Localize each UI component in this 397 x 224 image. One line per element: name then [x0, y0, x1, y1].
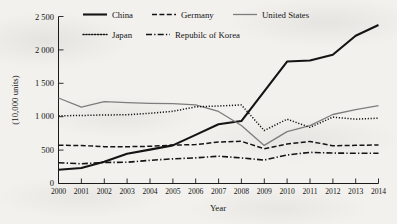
legend-item-united-states: United States	[233, 10, 310, 20]
legend-label: Germany	[181, 10, 214, 20]
series-line-united-states	[59, 98, 379, 145]
x-tick-label: 2000	[51, 187, 66, 196]
series-line-germany	[59, 141, 379, 148]
y-tick-label: 1 500	[35, 78, 54, 88]
x-tick-label: 2008	[234, 187, 249, 196]
chart-legend: China Germany United States Japan Repubi…	[83, 10, 310, 40]
line-chart-figure: (10,000 units) 2 500 2 000 1 500 1 000 5…	[0, 0, 397, 224]
x-tick-label: 2007	[211, 187, 226, 196]
legend-label: Japan	[112, 30, 133, 40]
x-tick-label: 2010	[280, 187, 295, 196]
legend-item-republic-of-korea: Repubilc of Korea	[146, 30, 240, 40]
y-tick-label: 500	[41, 145, 54, 155]
y-tick-labels: 2 500 2 000 1 500 1 000 500 0	[35, 12, 54, 189]
legend-label: China	[112, 10, 133, 20]
y-tick-label: 2 500	[35, 12, 54, 22]
x-tick-label: 2002	[97, 187, 112, 196]
x-tick-label: 2012	[325, 187, 340, 196]
y-tick-label: 1 000	[35, 111, 54, 121]
x-tick-marks	[59, 179, 379, 184]
x-tick-labels: 2000 2001 2002 2003 2004 2005 2006 2007 …	[51, 187, 386, 196]
x-tick-label: 2001	[74, 187, 89, 196]
x-tick-label: 2014	[371, 187, 386, 196]
legend-label: Repubilc of Korea	[175, 30, 240, 40]
x-tick-label: 2013	[348, 187, 363, 196]
y-axis-title: (10,000 units)	[10, 75, 20, 124]
x-tick-label: 2003	[120, 187, 135, 196]
chart-svg: (10,000 units) 2 500 2 000 1 500 1 000 5…	[0, 0, 397, 224]
x-tick-label: 2011	[303, 187, 318, 196]
legend-item-japan: Japan	[83, 30, 133, 40]
x-tick-label: 2009	[257, 187, 272, 196]
x-tick-label: 2006	[188, 187, 203, 196]
x-tick-label: 2004	[142, 187, 157, 196]
series-line-repubilc-of-korea	[59, 152, 379, 163]
series-line-japan	[59, 105, 379, 131]
x-tick-label: 2005	[165, 187, 180, 196]
y-tick-marks	[59, 17, 64, 151]
x-axis-title: Year	[210, 203, 226, 213]
legend-item-germany: Germany	[152, 10, 214, 20]
legend-label: United States	[262, 10, 310, 20]
series-line-china	[59, 25, 379, 170]
legend-item-china: China	[83, 10, 133, 20]
y-tick-label: 2 000	[35, 45, 54, 55]
series-layer	[59, 25, 379, 170]
